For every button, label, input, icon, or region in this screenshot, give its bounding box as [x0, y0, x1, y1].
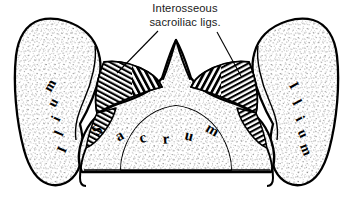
anatomical-illustration: Interosseous sacroiliac ligs. Sacrum Ili…	[0, 0, 353, 203]
callout-label: Interosseous sacroiliac ligs.	[149, 2, 220, 28]
callout-label-line1: Interosseous	[152, 2, 218, 14]
callout-label-line2: sacroiliac ligs.	[149, 16, 220, 28]
figure-root: Interosseous sacroiliac ligs. Sacrum Ili…	[0, 0, 353, 203]
